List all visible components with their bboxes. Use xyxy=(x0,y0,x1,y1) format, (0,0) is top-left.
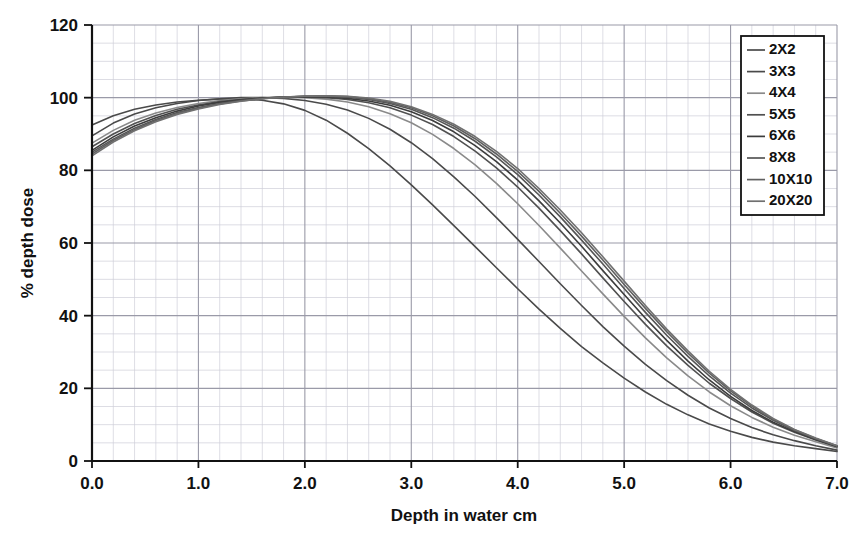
y-tick-label: 0 xyxy=(69,452,78,471)
legend-label-5x5: 5X5 xyxy=(769,105,796,122)
legend-label-8x8: 8X8 xyxy=(769,148,796,165)
y-axis-label: % depth dose xyxy=(18,188,37,299)
y-tick-label: 80 xyxy=(59,161,78,180)
y-tick-label: 40 xyxy=(59,307,78,326)
x-tick-label: 6.0 xyxy=(719,474,743,493)
x-tick-labels: 0.01.02.03.04.05.06.07.0 xyxy=(80,474,849,493)
x-tick-label: 3.0 xyxy=(399,474,423,493)
chart-legend[interactable]: 2X23X34X45X56X68X810X1020X20 xyxy=(741,36,824,215)
x-tick-label: 7.0 xyxy=(825,474,849,493)
y-tick-label: 60 xyxy=(59,234,78,253)
x-tick-label: 4.0 xyxy=(506,474,530,493)
y-tick-labels: 020406080100120 xyxy=(50,16,78,471)
y-tick-label: 20 xyxy=(59,379,78,398)
x-tick-label: 5.0 xyxy=(612,474,636,493)
x-tick-label: 0.0 xyxy=(80,474,104,493)
legend-label-3x3: 3X3 xyxy=(769,62,796,79)
depth-dose-chart: 020406080100120 0.01.02.03.04.05.06.07.0… xyxy=(0,0,865,534)
legend-label-2x2: 2X2 xyxy=(769,40,796,57)
y-tick-label: 100 xyxy=(50,89,78,108)
legend-label-20x20: 20X20 xyxy=(769,191,812,208)
x-tick-label: 1.0 xyxy=(187,474,211,493)
y-tick-label: 120 xyxy=(50,16,78,35)
legend-label-6x6: 6X6 xyxy=(769,126,796,143)
legend-label-10x10: 10X10 xyxy=(769,170,812,187)
x-tick-label: 2.0 xyxy=(293,474,317,493)
legend-label-4x4: 4X4 xyxy=(769,83,796,100)
x-axis-label: Depth in water cm xyxy=(391,506,537,525)
chart-figure: 020406080100120 0.01.02.03.04.05.06.07.0… xyxy=(0,0,865,534)
